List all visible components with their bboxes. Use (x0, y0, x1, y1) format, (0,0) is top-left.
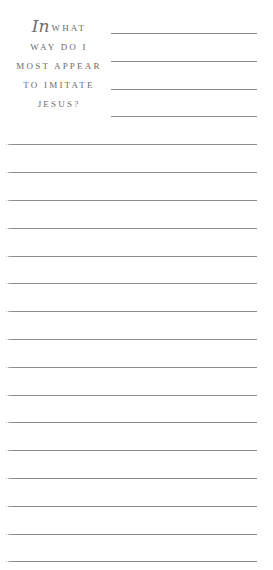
writing-line-14[interactable] (9, 506, 257, 507)
prompt-line-5: Jesus? (12, 95, 106, 114)
writing-line-7[interactable] (9, 311, 257, 312)
writing-line-4[interactable] (9, 228, 257, 229)
writing-line-15[interactable] (9, 534, 257, 535)
writing-line-short-2[interactable] (111, 61, 257, 62)
writing-line-2[interactable] (9, 172, 257, 173)
writing-line-13[interactable] (9, 478, 257, 479)
writing-line-6[interactable] (9, 283, 257, 284)
prompt-line-1: Inwhat (12, 17, 106, 38)
prompt-line-3: most appear (12, 57, 106, 76)
writing-line-12[interactable] (9, 450, 257, 451)
prompt-line-1-text: what (51, 23, 86, 33)
writing-line-3[interactable] (9, 200, 257, 201)
prompt-line-2: way do I (12, 38, 106, 57)
writing-line-short-3[interactable] (111, 89, 257, 90)
writing-line-short-1[interactable] (111, 33, 257, 34)
writing-line-9[interactable] (9, 367, 257, 368)
prompt-script-word: In (32, 16, 50, 36)
writing-line-8[interactable] (9, 339, 257, 340)
writing-line-16[interactable] (9, 561, 257, 562)
writing-line-1[interactable] (9, 144, 257, 145)
writing-line-short-4[interactable] (111, 116, 257, 117)
journal-prompt: Inwhat way do I most appear to imitate J… (12, 17, 106, 114)
writing-line-11[interactable] (9, 422, 257, 423)
writing-line-10[interactable] (9, 395, 257, 396)
writing-line-5[interactable] (9, 256, 257, 257)
prompt-line-4: to imitate (12, 76, 106, 95)
